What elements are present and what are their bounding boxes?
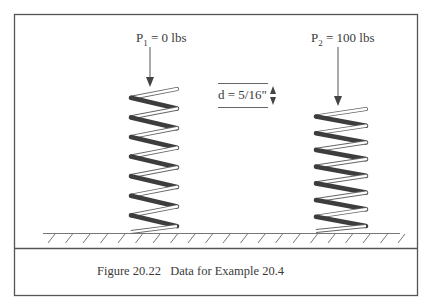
unloaded-spring <box>131 89 177 232</box>
dimension-up-arrow-icon <box>270 86 276 94</box>
loaded-spring <box>316 109 366 231</box>
load-label-1: P1 = 0 lbs <box>136 30 187 48</box>
load-arrow-2 <box>334 47 342 106</box>
load-label-2: P2 = 100 lbs <box>311 30 375 48</box>
ground-hatch <box>43 234 405 244</box>
dimension-down-arrow-icon <box>270 97 276 105</box>
figure-caption: Figure 20.22 Data for Example 20.4 <box>97 264 284 279</box>
figure-frame <box>15 15 418 296</box>
load-arrow-1 <box>146 47 154 87</box>
wire-diameter-label: d = 5/16" <box>218 87 267 103</box>
